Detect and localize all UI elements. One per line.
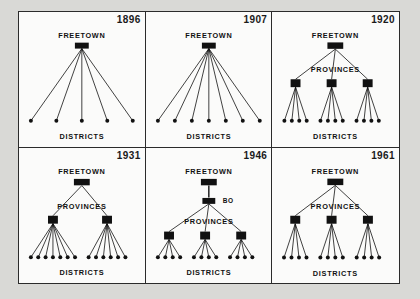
district-node xyxy=(223,119,227,123)
district-node xyxy=(51,255,55,259)
district-node xyxy=(362,119,366,123)
district-node xyxy=(305,119,309,123)
district-node xyxy=(282,255,286,259)
tree-diagram-1920: FREETOWNPROVINCESDISTRICTS xyxy=(272,12,399,147)
district-node xyxy=(370,119,374,123)
district-node xyxy=(87,255,91,259)
panel-1961: 1961 FREETOWNPROVINCESDISTRICTS xyxy=(272,148,399,284)
district-node xyxy=(105,119,109,123)
district-node xyxy=(334,119,338,123)
district-node xyxy=(341,255,345,259)
province-node xyxy=(102,215,112,223)
province-node xyxy=(363,79,373,87)
diagram-text-label: FREETOWN xyxy=(312,166,360,175)
tree-svg: FREETOWNDISTRICTS xyxy=(19,12,145,147)
tree-diagram-1946: FREETOWNBOPROVINCESDISTRICTS xyxy=(146,148,272,284)
district-node xyxy=(131,119,135,123)
diagram-text-label: PROVINCES xyxy=(311,65,360,74)
district-node xyxy=(290,255,294,259)
district-node xyxy=(377,119,381,123)
district-node xyxy=(199,255,203,259)
district-node xyxy=(363,255,367,259)
diagram-text-label: PROVINCES xyxy=(184,216,233,225)
district-node xyxy=(94,255,98,259)
district-node xyxy=(207,119,211,123)
diagram-text-label: FREETOWN xyxy=(58,31,105,40)
district-node xyxy=(54,119,58,123)
district-node xyxy=(123,255,127,259)
panel-1907: 1907 FREETOWNDISTRICTS xyxy=(146,12,273,148)
district-node xyxy=(235,255,239,259)
district-node xyxy=(243,255,247,259)
panel-grid: 1896 FREETOWNDISTRICTS 1907 FREETOWNDIST… xyxy=(19,12,399,283)
district-node xyxy=(326,119,330,123)
freetown-node xyxy=(202,43,216,49)
tree-diagram-1907: FREETOWNDISTRICTS xyxy=(146,12,272,147)
district-node xyxy=(101,255,105,259)
diagram-text-label: DISTRICTS xyxy=(313,268,358,277)
freetown-node xyxy=(201,178,217,184)
district-node xyxy=(58,255,62,259)
panel-1946: 1946 FREETOWNBOPROVINCESDISTRICTS xyxy=(146,148,273,284)
district-node xyxy=(319,119,323,123)
district-node xyxy=(228,255,232,259)
tree-diagram-1961: FREETOWNPROVINCESDISTRICTS xyxy=(272,148,399,284)
bo-node xyxy=(202,197,215,203)
district-node xyxy=(173,119,177,123)
diagram-text-label: FREETOWN xyxy=(185,167,232,176)
province-node xyxy=(48,215,58,223)
province-node xyxy=(164,231,174,239)
province-node xyxy=(363,215,373,223)
tree-diagram-1896: FREETOWNDISTRICTS xyxy=(19,12,145,147)
freetown-node xyxy=(328,42,344,48)
district-node xyxy=(109,255,113,259)
district-node xyxy=(214,255,218,259)
district-node xyxy=(29,119,33,123)
district-node xyxy=(334,255,338,259)
district-node xyxy=(80,119,84,123)
district-node xyxy=(326,255,330,259)
diagram-text-label: DISTRICTS xyxy=(59,268,104,277)
district-node xyxy=(250,255,254,259)
tree-svg: FREETOWNPROVINCESDISTRICTS xyxy=(19,148,145,284)
freetown-node xyxy=(75,43,89,49)
district-node xyxy=(257,119,261,123)
panel-1920: 1920 FREETOWNPROVINCESDISTRICTS xyxy=(272,12,399,148)
district-node xyxy=(190,119,194,123)
province-node xyxy=(327,215,337,223)
freetown-node xyxy=(328,178,344,184)
administrative-hierarchy-figure: 1896 FREETOWNDISTRICTS 1907 FREETOWNDIST… xyxy=(18,11,400,284)
tree-svg: FREETOWNDISTRICTS xyxy=(146,12,272,147)
province-node xyxy=(200,231,210,239)
district-node xyxy=(36,255,40,259)
district-node xyxy=(370,255,374,259)
district-node xyxy=(355,119,359,123)
district-node xyxy=(44,255,48,259)
district-node xyxy=(319,255,323,259)
district-node xyxy=(66,255,70,259)
district-node xyxy=(298,119,302,123)
diagram-text-label: DISTRICTS xyxy=(313,132,358,141)
province-node xyxy=(327,79,337,87)
district-node xyxy=(116,255,120,259)
district-node xyxy=(240,119,244,123)
district-node xyxy=(283,119,287,123)
district-node xyxy=(163,255,167,259)
freetown-node xyxy=(74,178,90,184)
district-node xyxy=(341,119,345,123)
tree-svg: FREETOWNBOPROVINCESDISTRICTS xyxy=(146,148,272,284)
diagram-text-label: FREETOWN xyxy=(312,31,359,40)
diagram-text-label: FREETOWN xyxy=(185,31,232,40)
district-node xyxy=(355,255,359,259)
district-node xyxy=(178,255,182,259)
district-node xyxy=(170,255,174,259)
province-node xyxy=(236,231,246,239)
diagram-text-label: DISTRICTS xyxy=(186,268,231,277)
district-node xyxy=(73,255,77,259)
province-node xyxy=(291,79,301,87)
panel-1896: 1896 FREETOWNDISTRICTS xyxy=(19,12,146,148)
district-node xyxy=(156,119,160,123)
tree-diagram-1931: FREETOWNPROVINCESDISTRICTS xyxy=(19,148,145,284)
panel-1931: 1931 FREETOWNPROVINCESDISTRICTS xyxy=(19,148,146,284)
tree-svg: FREETOWNPROVINCESDISTRICTS xyxy=(272,148,399,284)
